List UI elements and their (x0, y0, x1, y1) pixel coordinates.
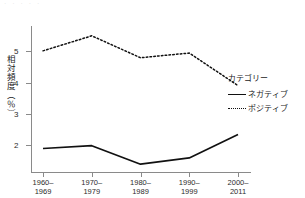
y-tick-label: 4 (14, 78, 18, 87)
y-tick-label: 3 (14, 110, 18, 119)
legend-title: カテゴリー (228, 72, 288, 83)
x-tick (92, 172, 93, 177)
y-tick-label: 5 (14, 47, 18, 56)
legend-swatch-solid-icon (228, 90, 246, 98)
x-tick (189, 172, 190, 177)
series-line-positive (43, 36, 238, 86)
legend: カテゴリー ネガティブポジティブ (228, 72, 288, 116)
series-line-negative (43, 134, 238, 164)
x-tick-label-line2: 1969 (33, 187, 54, 196)
x-tick (141, 172, 142, 177)
x-tick-label: 1990–1999 (179, 178, 200, 196)
x-tick-label-line1: 1990– (179, 178, 200, 187)
x-tick-label-line1: 1980– (130, 178, 151, 187)
x-tick-label: 1980–1989 (130, 178, 151, 196)
x-tick (238, 172, 239, 177)
y-axis-spine (31, 26, 32, 173)
y-tick (26, 83, 31, 84)
x-tick-label: 1960–1969 (33, 178, 54, 196)
legend-entries: ネガティブポジティブ (228, 88, 288, 113)
x-tick-label-line1: 1970– (81, 178, 102, 187)
x-tick-label-line1: 1960– (33, 178, 54, 187)
chart-root: · · · · · 相対頻度（％） 2345 1960–19691970–197… (0, 0, 305, 198)
x-tick-label-line2: 1989 (130, 187, 151, 196)
legend-entry-label: ポジティブ (248, 102, 288, 113)
x-tick-label-line1: 2000– (228, 178, 249, 187)
x-tick-label: 2000–2011 (228, 178, 249, 196)
x-tick-label-line2: 1999 (179, 187, 200, 196)
y-tick (26, 51, 31, 52)
x-tick (43, 172, 44, 177)
legend-entry[interactable]: ポジティブ (228, 102, 288, 113)
legend-swatch-dotted-icon (228, 104, 246, 112)
x-tick-label-line2: 1979 (81, 187, 102, 196)
cropped-text-artifact: · · · · · (4, 0, 41, 7)
y-tick (26, 145, 31, 146)
legend-entry-label: ネガティブ (248, 88, 288, 99)
legend-entry[interactable]: ネガティブ (228, 88, 288, 99)
x-tick-label: 1970–1979 (81, 178, 102, 196)
y-tick (26, 114, 31, 115)
y-tick-label: 2 (14, 141, 18, 150)
x-tick-label-line2: 2011 (228, 187, 249, 196)
